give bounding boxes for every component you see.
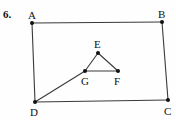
segment-ge xyxy=(85,53,98,71)
vertex-label-b: B xyxy=(158,9,165,20)
segment-ab xyxy=(32,22,162,23)
vertex-label-d: D xyxy=(30,107,38,118)
vertex-label-f: F xyxy=(114,76,120,87)
figure-canvas xyxy=(0,0,176,120)
vertex-point-e xyxy=(96,51,100,55)
vertex-label-a: A xyxy=(28,10,36,21)
vertex-point-g xyxy=(83,69,87,73)
geometry-figure: 6. ABCDEFG xyxy=(0,0,176,120)
vertex-label-e: E xyxy=(94,39,101,50)
vertex-point-f xyxy=(116,69,120,73)
vertex-point-d xyxy=(33,100,37,104)
segment-bc xyxy=(162,22,168,100)
vertex-layer xyxy=(30,20,170,104)
vertex-point-c xyxy=(166,98,170,102)
segment-da xyxy=(32,23,35,102)
segment-ef xyxy=(98,53,118,71)
segment-dg xyxy=(35,71,85,102)
vertex-label-g: G xyxy=(81,76,89,87)
problem-number: 6. xyxy=(3,9,11,20)
segment-layer xyxy=(32,22,168,102)
vertex-point-b xyxy=(160,20,164,24)
segment-cd xyxy=(35,100,168,102)
vertex-point-a xyxy=(30,21,34,25)
vertex-label-c: C xyxy=(164,106,171,117)
